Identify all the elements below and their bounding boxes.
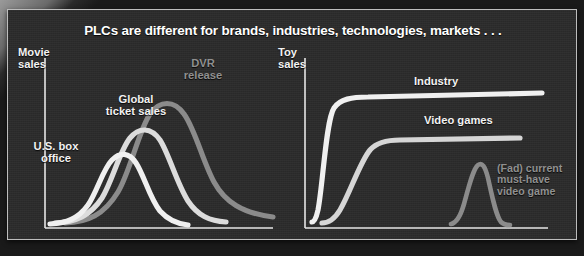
label-us-box-office: U.S. box office (21, 140, 91, 164)
slide-root: PLCs are different for brands, industrie… (0, 0, 584, 256)
label-fad-video-game: (Fad) current must-have video game (497, 163, 562, 197)
page-title: PLCs are different for brands, industrie… (8, 23, 578, 38)
slide-panel: PLCs are different for brands, industrie… (7, 9, 577, 240)
label-industry: Industry (414, 75, 458, 87)
left-chart-y-axis-label: Movie sales (18, 46, 50, 70)
label-dvr-release: DVR release (172, 57, 234, 81)
label-video-games: Video games (424, 114, 493, 126)
label-global-ticket-sales: Global ticket sales (92, 93, 180, 117)
right-chart-y-axis-label: Toy sales (278, 46, 306, 70)
